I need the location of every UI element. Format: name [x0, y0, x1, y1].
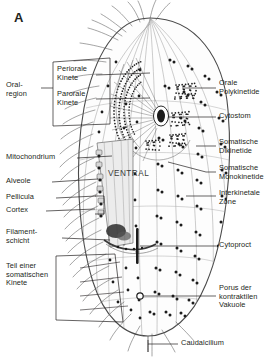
leader-parorale [96, 98, 150, 99]
leader-pellicula [56, 196, 96, 198]
leader-somatische-monokinetide [168, 162, 216, 172]
label-teil-einer-somatischen-kinete: Teil einer somatischen Kinete [6, 262, 48, 288]
label-somatische-monokinetide: Somatische Monokinetide [219, 164, 264, 181]
figure-canvas: A VENTRAL Oral- region Periorale Kinete … [0, 0, 279, 362]
label-filamentschicht: Filament- schicht [6, 228, 37, 245]
label-cytoproct: Cytoproct [219, 241, 251, 250]
label-cortex: Cortex [6, 206, 28, 215]
label-pellicula: Pellicula [6, 193, 34, 202]
label-interkinetale-zone: Interkinetale Zone [219, 189, 260, 206]
leader-mitochondrium [77, 156, 112, 158]
label-somatische-dikinetide: Somatische Dikinetide [219, 138, 258, 155]
label-cytostom: Cytostom [219, 112, 251, 121]
label-periorale-kinete: Periorale Kinete [57, 65, 87, 82]
leader-alveole [52, 179, 98, 182]
label-caudalcilium: Caudalcilium [181, 339, 224, 348]
orientation-label-ventral: VENTRAL [108, 169, 149, 178]
leader-filamentschicht [62, 238, 110, 240]
panel-letter: A [14, 10, 24, 25]
label-oral-region: Oral- region [6, 81, 27, 98]
label-mitochondrium: Mitochondrium [6, 153, 55, 162]
label-parorale-kinete: Parorale Kinete [57, 90, 85, 107]
leader-cortex [46, 209, 95, 211]
label-orale-polykinetide: Orale Polykinetide [219, 79, 259, 96]
teil-kinete-bracket [56, 254, 123, 322]
leader-periorale [96, 73, 150, 75]
label-alveole: Alveole [6, 177, 31, 186]
label-porus-der-kontraktilen-vakuole: Porus der kontraktilen Vakuole [219, 284, 257, 310]
